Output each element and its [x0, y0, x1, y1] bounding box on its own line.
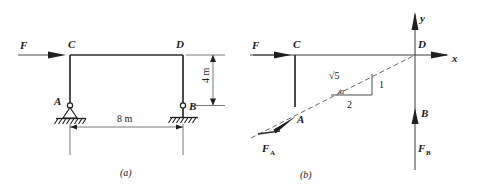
support-a-label: A: [53, 95, 61, 107]
axis-x-arrowhead: [431, 52, 449, 59]
force-f-label-a: F: [19, 39, 28, 51]
force-f-arrowhead-b: [274, 52, 291, 59]
dim-4m-arrow-top: [210, 55, 216, 62]
support-b-hatching: [169, 118, 197, 124]
reaction-fa-label: F: [261, 142, 270, 154]
support-b-pin-circle: [180, 103, 185, 108]
reaction-fb-subscript: B: [426, 149, 431, 157]
reaction-fb-label: F: [417, 142, 426, 154]
diagram-a-group: F C D A: [18, 38, 225, 179]
axis-y-label: y: [418, 12, 425, 24]
support-a-triangle: [63, 108, 77, 119]
figure-canvas: F C D A: [0, 0, 478, 196]
force-f-label-b: F: [251, 39, 260, 51]
reaction-fb-arrowhead: [412, 108, 419, 124]
reaction-fa-subscript: A: [270, 149, 275, 157]
dim-4m-arrow-bottom: [210, 99, 216, 106]
support-a-hatching: [55, 119, 87, 125]
point-b-label-b: B: [420, 107, 428, 119]
slope-vertical-label: 1: [379, 79, 384, 90]
slope-base-label: 2: [347, 99, 352, 110]
diagram-b-group: x y F C D A F A: [250, 12, 458, 181]
dim-8m-arrow-left: [70, 125, 77, 130]
force-f-arrowhead-a: [48, 52, 66, 59]
support-b-label: B: [188, 100, 196, 112]
caption-a: (a): [120, 167, 132, 179]
joint-d-label-a: D: [175, 38, 184, 50]
slope-hypotenuse-label: √5: [329, 70, 340, 81]
dim-8m-label: 8 m: [117, 113, 133, 124]
axis-x-label: x: [451, 52, 458, 64]
figure-root: F C D A: [0, 0, 478, 196]
line-of-action-fa: [251, 55, 415, 138]
joint-c-label-a: C: [68, 38, 76, 50]
dim-8m-arrow-right: [176, 125, 183, 130]
axis-y-arrowhead: [412, 12, 419, 30]
caption-b: (b): [300, 169, 312, 181]
joint-d-label-b: D: [417, 38, 426, 50]
dim-4m-label: 4 m: [200, 68, 211, 84]
joint-c-label-b: C: [293, 38, 301, 50]
